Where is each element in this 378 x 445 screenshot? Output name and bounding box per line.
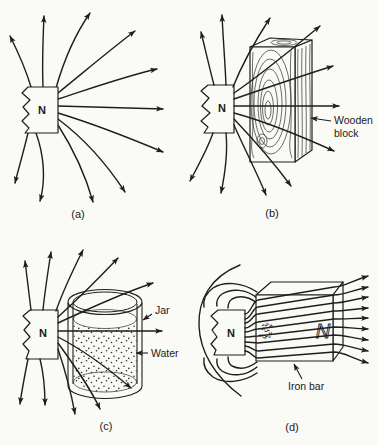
panel-caption-a: (a)	[71, 208, 84, 220]
figure-page: N (a) N	[0, 0, 378, 445]
jar-label: Jar	[155, 304, 170, 316]
induced-north-label: N	[316, 320, 331, 342]
panel-a: N (a)	[10, 13, 163, 220]
panel-c: N	[20, 250, 179, 432]
iron-bar-pointer	[294, 364, 302, 379]
pole-label-d: N	[227, 327, 235, 339]
wooden-block-label-line2: block	[334, 127, 359, 139]
wooden-block	[250, 38, 312, 162]
panel-d: N S N Iron bar (d)	[199, 265, 368, 433]
panel-b: N	[190, 15, 373, 219]
water-label: Water	[151, 347, 179, 359]
pole-label-a: N	[38, 104, 46, 116]
pole-label-c: N	[39, 327, 47, 339]
panel-caption-b: (b)	[265, 207, 278, 219]
wooden-block-pointer	[311, 118, 331, 121]
induced-south-label: S	[259, 320, 273, 342]
jar-pointer	[143, 314, 152, 320]
pole-label-b: N	[218, 102, 226, 114]
wooden-block-label-line1: Wooden	[334, 114, 373, 126]
panel-caption-d: (d)	[285, 421, 298, 433]
iron-bar-label: Iron bar	[288, 380, 325, 392]
panel-caption-c: (c)	[100, 420, 113, 432]
jar	[68, 290, 142, 399]
figure-canvas: N (a) N	[0, 0, 378, 445]
